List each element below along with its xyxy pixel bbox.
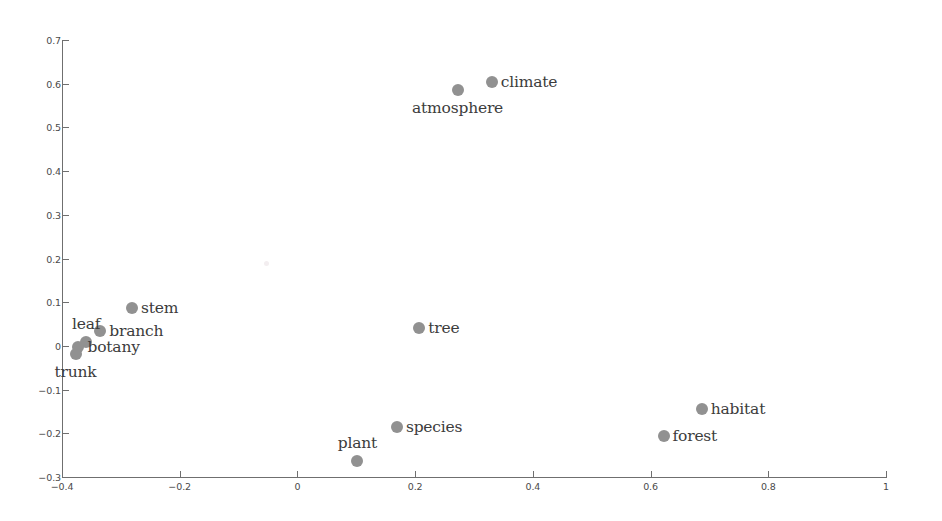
data-point-trunk[interactable] [70, 348, 82, 360]
data-point-habitat[interactable] [696, 403, 708, 415]
data-point-stem[interactable] [126, 302, 138, 314]
y-tick-label: −0.2 [38, 428, 61, 439]
x-tick-mark [886, 471, 887, 477]
data-point-species[interactable] [391, 421, 403, 433]
x-tick-mark [180, 471, 181, 477]
point-label-leaf: leaf [72, 315, 100, 333]
x-tick-mark [415, 471, 416, 477]
y-tick-mark [63, 302, 69, 303]
data-point-atmosphere[interactable] [452, 84, 464, 96]
x-tick-mark [533, 471, 534, 477]
x-tick-label: −0.2 [168, 481, 191, 492]
point-label-species: species [406, 418, 462, 436]
y-tick-label: 0 [55, 340, 61, 351]
x-tick-mark [651, 471, 652, 477]
x-tick-label: 0 [294, 481, 300, 492]
y-tick-label: 0.1 [46, 297, 61, 308]
y-tick-label: −0.1 [38, 384, 61, 395]
x-tick-label: 1 [883, 481, 889, 492]
x-tick-label: −0.4 [51, 481, 74, 492]
y-tick-mark [63, 215, 69, 216]
y-tick-mark [63, 477, 69, 478]
x-tick-label: 0.8 [761, 481, 776, 492]
y-tick-label: 0.5 [46, 122, 61, 133]
point-label-stem: stem [141, 299, 178, 317]
data-point-plant[interactable] [351, 455, 363, 467]
x-tick-mark [768, 471, 769, 477]
point-label-atmosphere: atmosphere [412, 99, 503, 117]
data-point-forest[interactable] [658, 430, 670, 442]
y-tick-mark [63, 84, 69, 85]
y-tick-mark [63, 259, 69, 260]
y-tick-mark [63, 40, 69, 41]
x-axis-line [62, 477, 887, 478]
y-tick-label: −0.3 [38, 472, 61, 483]
y-tick-label: 0.6 [46, 78, 61, 89]
scan-artifact [264, 261, 269, 266]
y-tick-mark [63, 171, 69, 172]
y-tick-mark [63, 390, 69, 391]
x-tick-mark [297, 471, 298, 477]
x-tick-label: 0.4 [525, 481, 540, 492]
point-label-trunk: trunk [55, 363, 97, 381]
y-tick-mark [63, 433, 69, 434]
y-tick-label: 0.2 [46, 253, 61, 264]
scatter-plot: −0.4−0.200.20.40.60.81 −0.3−0.2−0.100.10… [0, 0, 942, 521]
point-label-climate: climate [501, 73, 558, 91]
point-label-forest: forest [673, 427, 718, 445]
point-label-tree: tree [428, 319, 459, 337]
data-point-tree[interactable] [413, 322, 425, 334]
point-label-habitat: habitat [711, 400, 765, 418]
x-tick-label: 0.2 [408, 481, 423, 492]
point-label-botany: botany [87, 338, 139, 356]
point-label-plant: plant [338, 434, 377, 452]
x-tick-label: 0.6 [643, 481, 658, 492]
y-tick-label: 0.3 [46, 209, 61, 220]
y-tick-label: 0.7 [46, 35, 61, 46]
y-tick-mark [63, 346, 69, 347]
y-tick-mark [63, 127, 69, 128]
data-point-climate[interactable] [486, 76, 498, 88]
y-tick-label: 0.4 [46, 166, 61, 177]
